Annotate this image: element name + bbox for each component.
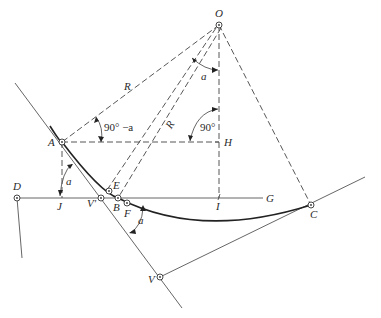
- point-D: [14, 195, 20, 201]
- label-angle-90-minus-a: 90° −a: [104, 121, 133, 133]
- label-angle-a-O: a: [201, 70, 207, 82]
- label-H: H: [223, 136, 233, 148]
- point-E: [106, 188, 112, 194]
- label-radius-OA: R: [123, 80, 131, 92]
- arrow-head: [212, 67, 218, 73]
- label-F: F: [123, 207, 131, 219]
- tangent-line-VC: [160, 177, 365, 277]
- arrow-head: [129, 229, 136, 234]
- label-E: E: [112, 179, 120, 191]
- label-angle-a-F: a: [138, 214, 144, 226]
- line-OB: [118, 28, 221, 198]
- arrow-head: [188, 135, 193, 141]
- label-O: O: [215, 7, 223, 19]
- point-V-prime: [98, 195, 104, 201]
- label-B: B: [113, 201, 120, 213]
- radius-OE: [107, 28, 216, 190]
- label-radius-OE: R: [162, 118, 176, 131]
- label-angle-90: 90°: [200, 121, 215, 133]
- label-A: A: [47, 136, 55, 148]
- arrow-head: [98, 136, 104, 142]
- point-O: [216, 22, 222, 28]
- curve-geometry-diagram: O A H J D I G C V' E B F V R R 90° −a 90…: [0, 0, 381, 318]
- label-V-prime: V': [87, 197, 97, 209]
- label-G: G: [266, 192, 274, 204]
- point-V: [157, 274, 163, 280]
- label-angle-a-J: a: [66, 175, 72, 187]
- label-J: J: [57, 200, 63, 212]
- label-C: C: [310, 208, 318, 220]
- line-OC: [219, 25, 311, 205]
- tangent-line-AV: [15, 83, 182, 308]
- point-A: [59, 139, 65, 145]
- label-I: I: [215, 200, 221, 212]
- point-F: [124, 200, 130, 206]
- line-D-down: [17, 198, 22, 258]
- label-D: D: [12, 180, 21, 192]
- label-V: V: [148, 273, 156, 285]
